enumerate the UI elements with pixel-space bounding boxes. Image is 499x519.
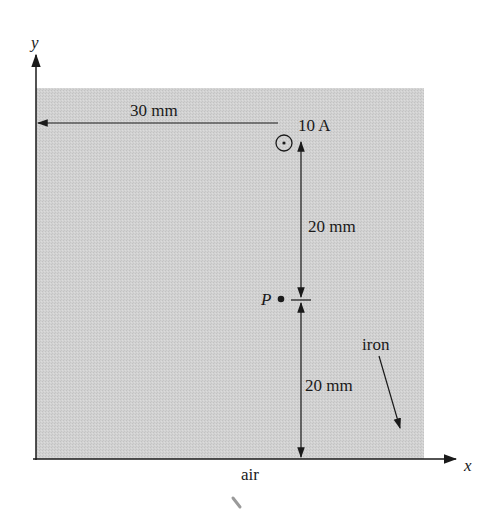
point-p-label: P bbox=[260, 290, 271, 309]
vertical-dimension-upper-label: 20 mm bbox=[308, 217, 356, 236]
smudge-mark bbox=[233, 498, 240, 507]
y-axis-label: y bbox=[29, 33, 39, 52]
current-label: 10 A bbox=[298, 116, 331, 135]
iron-region bbox=[36, 88, 424, 459]
air-label: air bbox=[241, 465, 259, 484]
point-p-marker bbox=[278, 296, 285, 303]
x-axis-label: x bbox=[463, 456, 472, 475]
diagram-canvas: x y 30 mm 10 A 20 mm 20 mm P iron air bbox=[0, 0, 499, 519]
iron-label: iron bbox=[362, 335, 390, 354]
horizontal-dimension-label: 30 mm bbox=[130, 101, 178, 120]
vertical-dimension-lower-label: 20 mm bbox=[305, 376, 353, 395]
